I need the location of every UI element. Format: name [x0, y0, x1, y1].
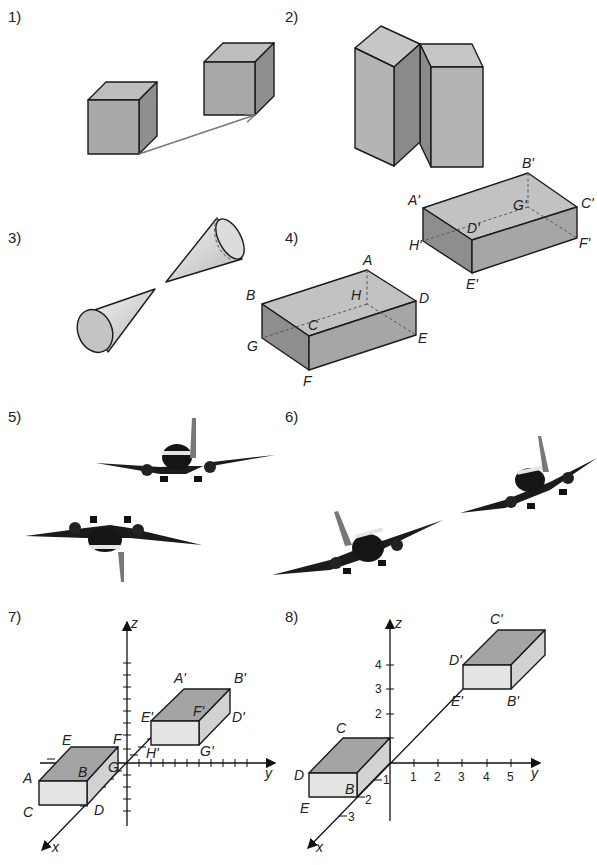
exercise-4: 4) A B C D E F G H A' B' C' D' E' F' G' …	[246, 155, 595, 389]
x-tick-2: 2	[365, 793, 372, 807]
prism-left	[355, 26, 420, 166]
vertex-label-a-prime: A'	[407, 192, 421, 208]
cuboid-abcdefgh	[262, 270, 416, 370]
vertex-label-b-prime: B'	[507, 693, 520, 709]
cube-image	[204, 43, 274, 115]
y-tick-3: 3	[458, 770, 465, 784]
vertex-label-b-prime: B'	[234, 670, 247, 686]
vertex-label-f: F	[113, 731, 123, 747]
vertex-label-b-prime: B'	[522, 155, 535, 171]
vertex-label-g-prime: G'	[513, 197, 528, 213]
cube-original	[88, 82, 157, 154]
vertex-label-g: G	[247, 338, 258, 354]
z-tick-2: 2	[375, 707, 382, 721]
vertex-label-h: H	[351, 287, 362, 303]
vertex-label-b: B	[246, 287, 255, 303]
x-tick-1: 1	[383, 773, 390, 787]
cuboid-image-7	[151, 689, 230, 745]
exercise-8: 8) 2 3 4 1 2 3 4 5 1 2 3	[285, 608, 545, 855]
y-tick-2: 2	[434, 770, 441, 784]
exercise-number: 1)	[8, 8, 21, 25]
vertex-label-d: D	[419, 290, 429, 306]
vertex-label-e-prime: E'	[451, 693, 464, 709]
exercise-6: 6)	[272, 408, 597, 575]
exercise-number: 2)	[285, 8, 298, 25]
vertex-label-e: E	[300, 800, 310, 816]
vertex-label-b: B	[345, 781, 354, 797]
airplane-banking-left	[272, 511, 443, 575]
vertex-label-g-prime: G'	[200, 743, 215, 759]
axis-label-y: y	[530, 765, 539, 781]
exercise-number: 7)	[8, 608, 21, 625]
exercise-2: 2)	[285, 8, 483, 167]
exercise-3: 3)	[8, 214, 250, 357]
vertex-label-f-prime: F'	[579, 235, 592, 251]
vertex-label-b: B	[78, 764, 87, 780]
vertex-label-c: C	[308, 317, 319, 333]
vertex-label-a-prime: A'	[173, 670, 187, 686]
airplane-inverted	[25, 516, 202, 582]
vertex-label-h-prime: H'	[409, 237, 423, 253]
axis-label-z: z	[394, 615, 402, 631]
vertex-label-f: F	[303, 373, 313, 389]
prism-right	[420, 44, 483, 167]
cone-lower	[71, 289, 155, 358]
vertex-label-e-prime: E'	[466, 276, 479, 292]
cone-upper	[166, 214, 250, 282]
axis-label-y: y	[264, 765, 273, 781]
z-tick-4: 4	[375, 658, 382, 672]
exercise-number: 8)	[285, 608, 298, 625]
exercise-page: 1) 2) 3)	[0, 0, 597, 865]
z-tick-3: 3	[375, 682, 382, 696]
y-tick-4: 4	[483, 770, 490, 784]
exercise-number: 6)	[285, 408, 298, 425]
vertex-label-c: C	[336, 720, 347, 736]
vertex-label-d: D	[294, 767, 304, 783]
vertex-label-h-prime: H'	[146, 745, 160, 761]
axis-label-x: x	[51, 839, 60, 855]
exercise-7: 7)	[8, 608, 275, 855]
x-tick-3: 3	[348, 810, 355, 824]
vertex-label-d-prime: D'	[232, 709, 246, 725]
airplane-banking-right	[460, 436, 597, 513]
vertex-label-f-prime: F'	[193, 703, 206, 719]
y-tick-1: 1	[410, 770, 417, 784]
vertex-label-g: G	[108, 759, 119, 775]
exercise-number: 5)	[8, 408, 21, 425]
vertex-label-c-prime: C'	[581, 195, 595, 211]
axis-label-x: x	[315, 839, 324, 855]
vertex-label-d-prime: D'	[467, 220, 481, 236]
exercise-5: 5)	[8, 408, 275, 582]
cuboid-image-8	[463, 630, 545, 689]
cuboid-image	[423, 173, 577, 273]
axis-label-z: z	[130, 615, 138, 631]
exercise-number: 4)	[285, 229, 298, 246]
y-tick-5: 5	[507, 770, 514, 784]
vertex-label-d: D	[94, 802, 104, 818]
vertex-label-a: A	[22, 770, 32, 786]
vertex-label-e: E	[62, 732, 72, 748]
airplane-upright	[96, 418, 275, 482]
exercise-1: 1)	[8, 8, 274, 154]
exercise-number: 3)	[8, 229, 21, 246]
vertex-label-c-prime: C'	[490, 611, 504, 627]
vertex-label-e: E	[418, 330, 428, 346]
vertex-label-d-prime: D'	[449, 652, 463, 668]
vertex-label-a: A	[362, 252, 372, 268]
vertex-label-c: C	[23, 804, 34, 820]
vertex-label-e-prime: E'	[141, 709, 154, 725]
